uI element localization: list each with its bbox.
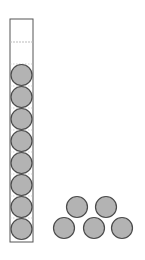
loose-counter (96, 197, 117, 218)
tube-counter (11, 175, 32, 196)
tube-counter (11, 87, 32, 108)
loose-counter (67, 197, 88, 218)
tube-counter (11, 219, 32, 240)
loose-counters (54, 197, 133, 239)
tube-counter (11, 65, 32, 86)
tube-counter (11, 131, 32, 152)
loose-counter (54, 218, 75, 239)
loose-counter (84, 218, 105, 239)
tube-counter (11, 153, 32, 174)
tube-counter (11, 197, 32, 218)
counters-diagram (0, 0, 145, 260)
loose-counter (112, 218, 133, 239)
tube-counter (11, 109, 32, 130)
